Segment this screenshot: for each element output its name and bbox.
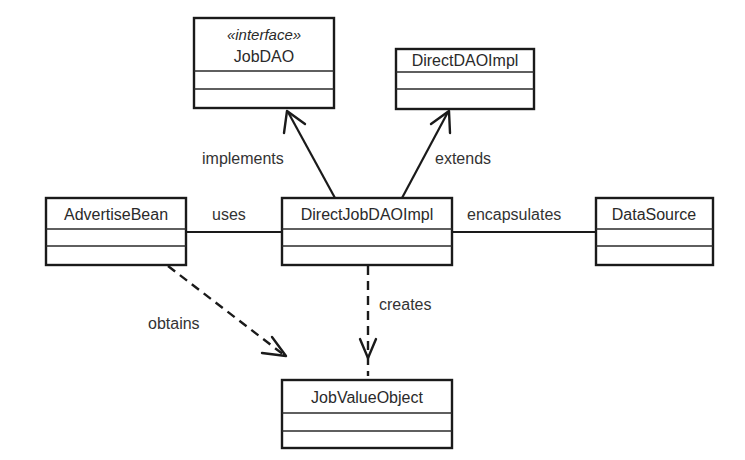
uses-label: uses	[212, 206, 246, 223]
class-advertisebean: AdvertiseBean	[46, 198, 186, 265]
obtains-line	[168, 266, 284, 355]
extends-label: extends	[435, 150, 491, 167]
relationship-obtains: obtains	[148, 266, 286, 356]
encapsulates-label: encapsulates	[467, 206, 561, 223]
class-directdaoimpl: DirectDAOImpl	[396, 49, 534, 109]
class-name: JobValueObject	[311, 389, 423, 406]
class-name: DirectDAOImpl	[412, 52, 519, 69]
obtains-label: obtains	[148, 315, 200, 332]
class-name: DataSource	[612, 206, 697, 223]
relationship-implements: implements	[202, 111, 335, 198]
class-stereotype: «interface»	[227, 26, 301, 43]
class-name: AdvertiseBean	[64, 206, 168, 223]
creates-label: creates	[379, 296, 431, 313]
class-jobdao: «interface» JobDAO	[194, 18, 334, 108]
class-datasource: DataSource	[596, 198, 713, 265]
relationship-encapsulates: encapsulates	[452, 206, 596, 232]
class-jobvalueobject: JobValueObject	[282, 380, 452, 448]
relationship-extends: extends	[402, 111, 491, 198]
implements-label: implements	[202, 150, 284, 167]
relationship-creates: creates	[360, 266, 431, 376]
implements-line	[288, 112, 335, 198]
relationship-uses: uses	[186, 206, 282, 232]
class-directjobdaoimpl: DirectJobDAOImpl	[282, 198, 452, 265]
class-name: DirectJobDAOImpl	[301, 206, 433, 223]
class-name: JobDAO	[234, 48, 294, 65]
uml-class-diagram: implements extends uses encapsulates cre…	[0, 0, 745, 460]
